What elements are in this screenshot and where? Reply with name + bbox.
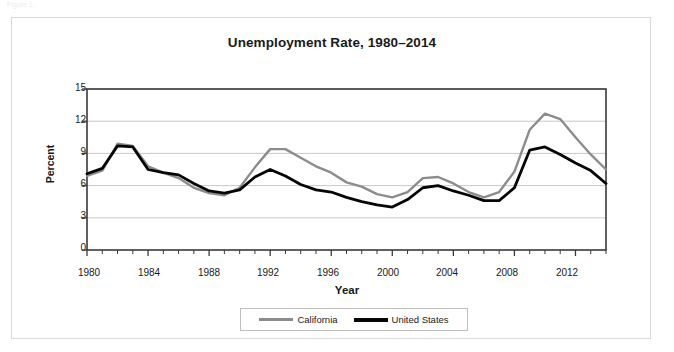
data-series-layer (87, 114, 606, 207)
legend-label: California (297, 314, 337, 325)
series-line-united-states (87, 146, 606, 207)
chart-svg (12, 18, 652, 340)
axis-frame (87, 89, 606, 250)
figure-frame: Unemployment Rate, 1980–2014 Percent Yea… (11, 17, 651, 339)
legend-swatch-united-states-icon (354, 318, 388, 322)
legend-item-united-states[interactable]: United States (354, 314, 449, 325)
cropped-header-text: Figure 1. (7, 1, 35, 8)
chart-plot-area: Percent Year 15 12 9 6 3 0 1980 1984 198… (12, 18, 652, 340)
legend-label: United States (392, 314, 449, 325)
plot-border (87, 89, 606, 250)
chart-legend: California United States (240, 308, 468, 331)
legend-item-california[interactable]: California (259, 314, 337, 325)
x-axis-ticks (87, 250, 606, 256)
legend-swatch-california-icon (259, 318, 293, 321)
